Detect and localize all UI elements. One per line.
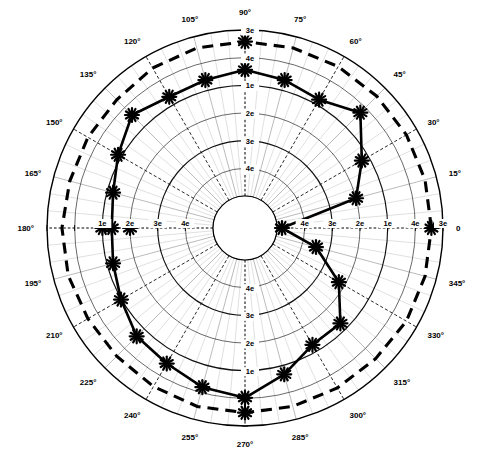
radial-tick-label: 1e	[98, 219, 106, 228]
radial-tick-label: 4e	[246, 54, 254, 63]
angle-tick-label-15: 15°	[449, 169, 461, 178]
angle-tick-label-210: 210°	[46, 331, 63, 340]
angle-tick-label-120: 120°	[124, 37, 141, 46]
radial-tick-label: 1e	[246, 81, 254, 90]
radial-tick-label: 4e	[300, 219, 308, 228]
angle-tick-label-345: 345°	[449, 279, 466, 288]
angle-tick-label-30: 30°	[427, 118, 439, 127]
center-hole-group	[213, 196, 277, 260]
radial-tick-label: 3e	[153, 219, 161, 228]
radial-tick-label: 4e	[246, 284, 254, 293]
angle-tick-label-60: 60°	[350, 37, 362, 46]
polar-chart-canvas: 4e3e2e1e4e3e4e3e2e1e4e3e2e1e4e3e4e3e2e1e…	[0, 0, 479, 457]
angle-tick-label-45: 45°	[394, 70, 406, 79]
angle-tick-label-240: 240°	[124, 411, 141, 420]
angle-tick-label-165: 165°	[25, 169, 42, 178]
angle-tick-label-135: 135°	[80, 70, 97, 79]
angle-tick-label-255: 255°	[182, 433, 199, 442]
radial-tick-label: 3e	[328, 219, 336, 228]
angle-tick-label-270: 270°	[237, 440, 254, 449]
radial-tick-label: 2e	[246, 109, 254, 118]
angle-tick-label-195: 195°	[25, 279, 42, 288]
radial-tick-label: 1e	[383, 219, 391, 228]
angle-tick-label-300: 300°	[350, 411, 367, 420]
angle-tick-label-225: 225°	[80, 378, 97, 387]
radial-tick-label: 4e	[411, 219, 419, 228]
radial-tick-label: 2e	[126, 219, 134, 228]
angle-tick-label-150: 150°	[46, 118, 63, 127]
angle-tick-label-90: 90°	[239, 8, 251, 17]
angle-tick-label-180: 180°	[17, 224, 34, 233]
angle-tick-label-105: 105°	[182, 15, 199, 24]
radial-tick-label: 4e	[181, 219, 189, 228]
radial-tick-label: 3e	[246, 26, 254, 35]
radial-tick-label: 2e	[246, 339, 254, 348]
radial-tick-label: 3e	[246, 137, 254, 146]
angle-tick-label-315: 315°	[394, 378, 411, 387]
center-hole	[213, 196, 277, 260]
angle-tick-label-330: 330°	[427, 331, 444, 340]
radial-tick-label: 1e	[246, 367, 254, 376]
radial-tick-label: 4e	[246, 164, 254, 173]
radial-tick-label: 3e	[439, 219, 447, 228]
radial-tick-label: 3e	[246, 311, 254, 320]
polar-chart: 4e3e2e1e4e3e4e3e2e1e4e3e2e1e4e3e4e3e2e1e…	[0, 0, 479, 457]
radial-tick-label: 2e	[356, 219, 364, 228]
angle-tick-label-285: 285°	[292, 433, 309, 442]
angle-tick-label-75: 75°	[294, 15, 306, 24]
angle-tick-label-0: 0	[456, 224, 461, 233]
